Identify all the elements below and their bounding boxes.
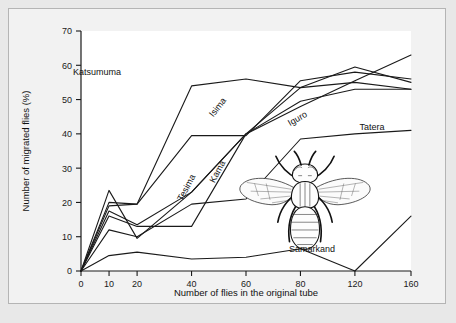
y-tick-label: 30: [62, 164, 72, 174]
y-tick-label: 0: [67, 266, 72, 276]
series-label-tatera: Tatera: [359, 122, 384, 132]
x-tick-label: 120: [347, 279, 362, 289]
series-label-katsumuma: Katsumuma: [73, 67, 121, 77]
fly-abdomen: [290, 207, 319, 250]
x-tick-label: 0: [78, 279, 83, 289]
y-tick-label: 70: [62, 26, 72, 36]
x-axis-title: Number of flies in the original tube: [174, 287, 318, 298]
y-axis-ticks: 010203040506070: [62, 26, 81, 276]
series-label-samarkand: Samarkand: [289, 244, 335, 254]
x-tick-label: 20: [132, 279, 142, 289]
y-tick-label: 20: [62, 198, 72, 208]
fly-head: [292, 164, 317, 183]
y-tick-label: 60: [62, 61, 72, 71]
line-chart: 010203040506070 01020406080120160: [9, 9, 447, 305]
y-axis-title: Number of migrated flies (%): [20, 91, 31, 212]
y-tick-label: 40: [62, 129, 72, 139]
x-tick-label: 160: [403, 279, 418, 289]
y-tick-label: 10: [62, 232, 72, 242]
x-tick-label: 10: [104, 279, 114, 289]
y-tick-label: 50: [62, 95, 72, 105]
figure-panel: 010203040506070 01020406080120160: [8, 8, 446, 304]
